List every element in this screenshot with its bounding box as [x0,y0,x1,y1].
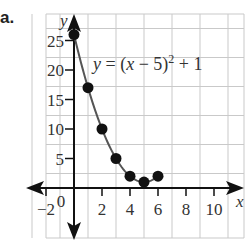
y-tick-label: 10 [47,120,64,139]
x-tick-label: 10 [206,200,223,219]
y-tick-label: 15 [47,91,64,110]
data-point [139,177,150,188]
y-tick-label: 5 [56,150,65,169]
x-tick-label: 8 [182,200,191,219]
data-point [69,29,80,40]
x-tick-label: 4 [126,200,135,219]
data-point [97,124,108,135]
y-tick-label: 20 [47,61,64,80]
x-tick-label: −2 [37,200,55,219]
x-tick-label: 6 [154,200,163,219]
data-point [111,153,122,164]
data-point [125,171,136,182]
x-tick-label: 2 [98,200,107,219]
equation-label: y = (x − 5)2 + 1 [91,52,202,75]
y-axis-label: y [58,11,68,30]
data-point [153,171,164,182]
data-point [83,82,94,93]
x-tick-label: 0 [57,192,66,211]
chart: xy −20246810510152025 y = (x − 5)2 + 1 [0,0,251,242]
y-tick-label: 25 [47,32,64,51]
x-axis-label: x [235,192,244,211]
